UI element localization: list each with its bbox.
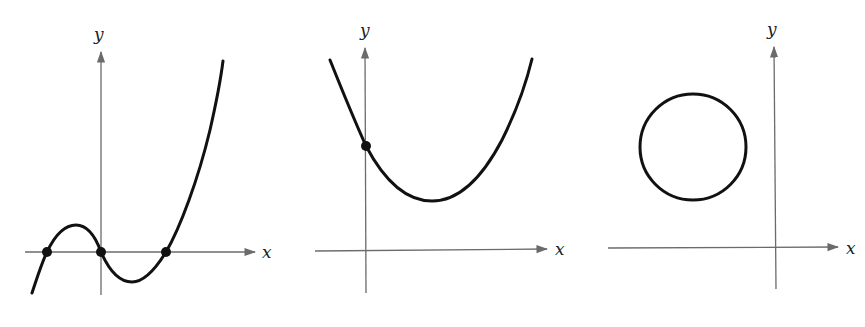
cubic-graph: x y <box>25 24 272 295</box>
circle-shape <box>640 94 746 200</box>
cubic-curve <box>32 61 223 293</box>
x-intercept-point <box>161 247 171 257</box>
x-axis <box>315 249 547 251</box>
y-axis <box>365 48 366 293</box>
x-axis-label: x <box>262 242 272 262</box>
x-axis-label: x <box>555 239 565 259</box>
parabola-graph: x y <box>315 20 565 293</box>
circle-graph: x y <box>608 19 856 289</box>
origin-point <box>96 247 106 257</box>
graphs-figure: x y x y x y <box>0 0 865 327</box>
y-axis-label: y <box>766 19 777 39</box>
parabola-curve <box>330 59 532 201</box>
x-intercept-point <box>42 247 52 257</box>
y-axis-label: y <box>93 24 104 44</box>
x-axis-label: x <box>846 238 856 258</box>
y-intercept-point <box>361 141 371 151</box>
y-axis <box>774 47 776 289</box>
y-axis-label: y <box>359 20 370 40</box>
x-axis <box>608 247 838 248</box>
